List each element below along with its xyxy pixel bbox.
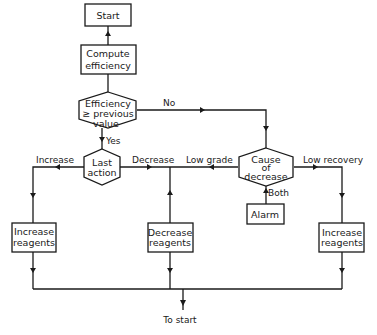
arrow-down-icon xyxy=(339,193,345,198)
node-decrease-reagents: Decrease reagents xyxy=(148,223,193,252)
node-efficiency-decision: Efficiency ≥ previous value xyxy=(79,92,136,129)
arrow-down-icon xyxy=(180,300,186,306)
arrow-down-icon xyxy=(167,268,173,273)
edge-labels: No Yes Increase Decrease Low grade Low r… xyxy=(36,98,364,325)
node-compute-efficiency: Compute efficiency xyxy=(81,45,136,74)
arrow-down-icon xyxy=(263,126,269,131)
node-decrease-line2: reagents xyxy=(149,237,191,248)
arrow-up-icon xyxy=(105,31,111,36)
edge-label-low-recovery: Low recovery xyxy=(303,155,364,165)
node-compute-line1: Compute xyxy=(86,48,129,59)
node-last-action-line2: action xyxy=(87,167,116,178)
arrow-up-icon xyxy=(167,190,173,195)
node-cause-line3: decrease xyxy=(244,171,287,182)
arrow-down-icon xyxy=(30,268,36,273)
edge-label-both: Both xyxy=(268,188,289,198)
node-compute-line2: efficiency xyxy=(85,60,131,71)
arrowheads xyxy=(30,31,345,306)
node-efficiency-line3: value xyxy=(93,118,119,129)
arrow-down-icon xyxy=(339,268,345,273)
flowchart: Start Compute efficiency Efficiency ≥ pr… xyxy=(0,0,377,335)
arrow-down-icon xyxy=(30,193,36,198)
arrow-down-icon xyxy=(99,137,105,142)
edge-label-increase: Increase xyxy=(36,155,75,165)
edge-label-to-start: To start xyxy=(162,315,197,325)
edge-label-decrease: Decrease xyxy=(132,155,175,165)
node-increase-reagents-right: Increase reagents xyxy=(319,223,364,252)
edge-label-yes: Yes xyxy=(105,136,121,146)
node-last-action: Last action xyxy=(84,149,120,185)
node-cause-of-decrease: Cause of decrease xyxy=(239,148,293,186)
node-increase-reagents-left: Increase reagents xyxy=(12,223,56,252)
edge-label-no: No xyxy=(163,98,176,108)
connectors xyxy=(33,26,342,310)
node-alarm: Alarm xyxy=(247,204,284,224)
arrow-right-icon xyxy=(200,107,205,113)
node-alarm-label: Alarm xyxy=(251,209,279,220)
edge-label-low-grade: Low grade xyxy=(186,155,233,165)
node-start-label: Start xyxy=(96,10,119,21)
node-increase-right-line2: reagents xyxy=(321,237,363,248)
node-increase-left-line1: Increase xyxy=(14,226,54,237)
node-increase-left-line2: reagents xyxy=(13,237,55,248)
node-start: Start xyxy=(85,4,131,26)
